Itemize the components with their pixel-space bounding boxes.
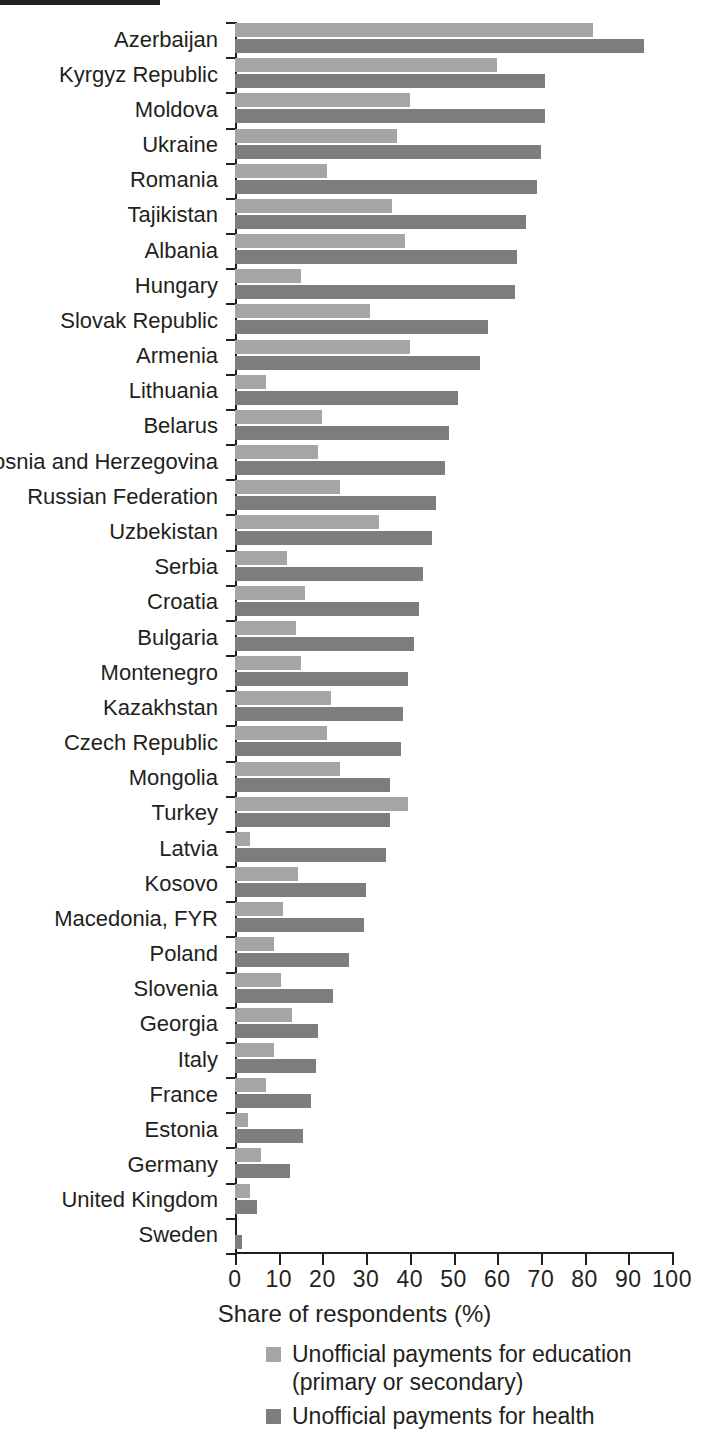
bar-group — [235, 550, 672, 585]
y-axis-tick — [226, 831, 235, 833]
bar-group — [235, 1077, 672, 1112]
bar-group — [235, 725, 672, 760]
bar-health — [235, 145, 541, 159]
x-axis-tick-label: 50 — [440, 1266, 467, 1293]
bar-education — [235, 867, 298, 881]
y-axis-tick — [226, 620, 235, 622]
bar-education — [235, 480, 340, 494]
category-label: Ukraine — [142, 132, 218, 158]
x-axis-tick-label: 40 — [397, 1266, 424, 1293]
bar-education — [235, 1043, 274, 1057]
category-label: Bulgaria — [137, 625, 218, 651]
bar-health — [235, 883, 366, 897]
category-label: Slovak Republic — [60, 308, 218, 334]
category-axis-labels: AzerbaijanKyrgyz RepublicMoldovaUkraineR… — [0, 22, 226, 1253]
y-axis-tick — [226, 22, 235, 24]
bar-health — [235, 602, 419, 616]
y-axis-tick — [226, 972, 235, 974]
bar-group — [235, 128, 672, 163]
category-label: Azerbaijan — [114, 27, 218, 53]
bar-health — [235, 672, 408, 686]
bar-education — [235, 726, 327, 740]
bar-health — [235, 215, 526, 229]
y-axis-tick — [226, 57, 235, 59]
category-label: Bosnia and Herzegovina — [0, 449, 218, 475]
bar-education — [235, 340, 410, 354]
category-label: Georgia — [140, 1011, 218, 1037]
bar-education — [235, 832, 250, 846]
bar-group — [235, 444, 672, 479]
y-axis-tick — [226, 796, 235, 798]
bar-education — [235, 656, 301, 670]
category-label: Kosovo — [145, 871, 218, 897]
bar-education — [235, 797, 408, 811]
bar-education — [235, 129, 397, 143]
bar-group — [235, 409, 672, 444]
bar-health — [235, 39, 644, 53]
y-axis-tick — [226, 444, 235, 446]
y-axis-tick — [226, 303, 235, 305]
x-axis-tick-label: 20 — [309, 1266, 336, 1293]
bar-group — [235, 163, 672, 198]
x-axis-tick — [366, 1254, 368, 1265]
bar-health — [235, 109, 545, 123]
bar-education — [235, 551, 287, 565]
category-label: Tajikistan — [128, 202, 218, 228]
y-axis-tick — [226, 514, 235, 516]
bar-health — [235, 848, 386, 862]
y-axis-tick — [226, 761, 235, 763]
y-axis-tick — [226, 479, 235, 481]
bar-health — [235, 74, 545, 88]
category-label: Kyrgyz Republic — [59, 62, 218, 88]
bar-education — [235, 93, 410, 107]
bar-education — [235, 621, 296, 635]
bar-group — [235, 233, 672, 268]
category-label: Sweden — [138, 1222, 218, 1248]
bar-group — [235, 268, 672, 303]
x-axis-tick — [322, 1254, 324, 1265]
bar-group — [235, 198, 672, 233]
bar-health — [235, 356, 480, 370]
bar-education — [235, 1078, 266, 1092]
x-axis-tick — [410, 1254, 412, 1265]
category-label: France — [150, 1082, 218, 1108]
legend-swatch-education-icon — [266, 1347, 281, 1362]
bar-education — [235, 1113, 248, 1127]
bar-group — [235, 831, 672, 866]
bar-group — [235, 1042, 672, 1077]
category-label: Croatia — [147, 589, 218, 615]
bar-education — [235, 515, 379, 529]
y-axis-tick — [226, 1183, 235, 1185]
bar-health — [235, 953, 349, 967]
category-label: Germany — [128, 1152, 218, 1178]
y-axis-tick — [226, 268, 235, 270]
category-label: Latvia — [159, 836, 218, 862]
bar-group — [235, 22, 672, 57]
bar-health — [235, 531, 432, 545]
bar-group — [235, 1147, 672, 1182]
bar-health — [235, 461, 445, 475]
bar-health — [235, 1024, 318, 1038]
bar-health — [235, 778, 390, 792]
category-label: Czech Republic — [64, 730, 218, 756]
category-label: Estonia — [145, 1117, 218, 1143]
bar-health — [235, 180, 537, 194]
y-axis-tick — [226, 866, 235, 868]
bar-education — [235, 410, 322, 424]
x-axis-tick-label: 100 — [652, 1266, 692, 1293]
x-axis-tick — [497, 1254, 499, 1265]
x-axis-tick — [454, 1254, 456, 1265]
y-axis-tick — [226, 409, 235, 411]
y-axis-tick — [226, 1147, 235, 1149]
x-axis-tick — [279, 1254, 281, 1265]
bar-education — [235, 269, 301, 283]
legend-swatch-health-icon — [266, 1409, 281, 1424]
bar-health — [235, 742, 401, 756]
y-axis-tick — [226, 550, 235, 552]
bar-health — [235, 1164, 290, 1178]
y-axis-tick — [226, 1077, 235, 1079]
y-axis-tick — [226, 725, 235, 727]
category-label: Poland — [149, 941, 218, 967]
bar-health — [235, 989, 333, 1003]
y-axis-tick — [226, 163, 235, 165]
